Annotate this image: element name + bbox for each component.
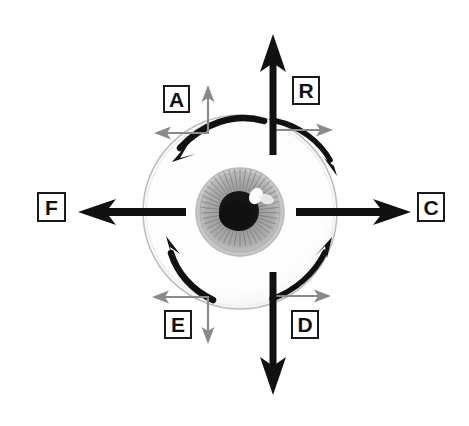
- eye-rotation-diagram: [0, 0, 469, 426]
- label-box-F[interactable]: F: [37, 192, 66, 222]
- label-text-C: C: [423, 197, 438, 218]
- label-text-R: R: [298, 80, 313, 101]
- label-text-F: F: [45, 197, 58, 218]
- label-box-A[interactable]: A: [163, 85, 190, 113]
- label-text-E: E: [171, 314, 185, 335]
- pupil-blend: [219, 200, 253, 230]
- label-text-D: D: [297, 314, 312, 335]
- label-box-R[interactable]: R: [292, 76, 320, 105]
- label-box-E[interactable]: E: [164, 310, 192, 339]
- label-box-C[interactable]: C: [417, 192, 445, 222]
- label-text-A: A: [169, 89, 184, 110]
- label-box-D[interactable]: D: [291, 310, 319, 339]
